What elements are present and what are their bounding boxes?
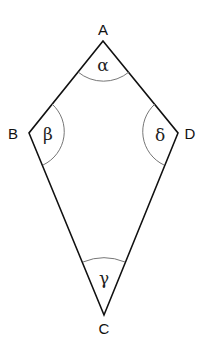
angle-label-delta: δ xyxy=(155,125,165,145)
vertex-label-c: C xyxy=(99,320,110,337)
vertex-label-d: D xyxy=(185,125,196,142)
angle-arc-gamma xyxy=(83,258,125,262)
angle-label-gamma: γ xyxy=(99,268,109,288)
vertex-label-b: B xyxy=(8,125,18,142)
vertex-label-a: A xyxy=(98,21,108,38)
angle-label-alpha: α xyxy=(97,55,109,75)
kite-diagram: A B D C α β δ γ xyxy=(0,0,210,345)
angle-label-beta: β xyxy=(43,124,53,144)
